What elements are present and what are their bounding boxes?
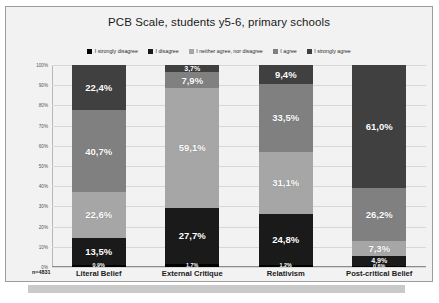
legend-label: I agree: [280, 48, 297, 54]
bar-segment-value-label: 40,7%: [85, 147, 112, 157]
bar-segment[interactable]: 7,3%: [352, 241, 406, 256]
legend-label: I disagree: [155, 48, 178, 54]
legend-item[interactable]: I strongly disagree: [87, 48, 138, 54]
y-axis-tick-label: 100%: [36, 63, 48, 68]
stacked-bar[interactable]: 61,0%26,2%7,3%4,9%0,6%: [352, 65, 406, 267]
bar-segment-value-label: 3,7%: [184, 65, 200, 72]
bar-segment[interactable]: 24,8%: [259, 214, 313, 264]
y-axis-tick-label: 40%: [39, 184, 48, 189]
x-axis-category-label: Relativism: [239, 269, 333, 278]
bar-segment-value-label: 1,7%: [186, 263, 198, 268]
bar-column[interactable]: 3,7%7,9%59,1%27,7%1,7%: [146, 65, 240, 267]
x-axis-category-label: External Critique: [146, 269, 240, 278]
legend-swatch-icon: [148, 49, 153, 54]
bar-segment[interactable]: 27,7%: [165, 208, 219, 264]
legend-swatch-icon: [273, 49, 278, 54]
bar-segment-value-label: 27,7%: [179, 231, 206, 241]
stacked-bar[interactable]: 3,7%7,9%59,1%27,7%1,7%: [165, 65, 219, 267]
bar-segment-value-label: 1,2%: [280, 263, 292, 268]
legend-label: I strongly disagree: [95, 48, 138, 54]
bar-segment-value-label: 0,9%: [93, 263, 105, 268]
bar-group: 22,4%40,7%22,6%13,5%0,9%3,7%7,9%59,1%27,…: [52, 65, 426, 267]
bar-segment-value-label: 22,4%: [85, 83, 112, 93]
bar-segment[interactable]: 7,9%: [165, 72, 219, 88]
chart-legend: I strongly disagreeI disagreeI neither a…: [6, 48, 432, 54]
stacked-bar[interactable]: 9,4%33,5%31,1%24,8%1,2%: [259, 65, 313, 267]
legend-item[interactable]: I strongly agree: [307, 48, 351, 54]
bar-segment[interactable]: 59,1%: [165, 88, 219, 207]
bar-segment[interactable]: 26,2%: [352, 188, 406, 241]
bar-segment-value-label: 61,0%: [366, 122, 393, 132]
bar-column[interactable]: 9,4%33,5%31,1%24,8%1,2%: [239, 65, 333, 267]
bar-segment[interactable]: 61,0%: [352, 65, 406, 188]
bar-segment[interactable]: 0,9%: [72, 265, 126, 267]
legend-swatch-icon: [307, 49, 312, 54]
bar-segment-value-label: 31,1%: [272, 178, 299, 188]
y-axis-tick-label: 30%: [39, 204, 48, 209]
x-axis-labels: Literal BeliefExternal CritiqueRelativis…: [52, 269, 426, 278]
bar-segment-value-label: 59,1%: [179, 143, 206, 153]
bar-segment[interactable]: 3,7%: [165, 65, 219, 72]
y-axis-tick-label: 80%: [39, 103, 48, 108]
chart-title: PCB Scale, students y5-6, primary school…: [6, 16, 432, 28]
bar-segment-value-label: 33,5%: [272, 113, 299, 123]
legend-label: I strongly agree: [314, 48, 351, 54]
sample-size-label: n=4831: [32, 269, 50, 275]
y-axis-tick-label: 50%: [39, 164, 48, 169]
bar-segment[interactable]: 40,7%: [72, 110, 126, 192]
bar-segment[interactable]: 1,7%: [165, 264, 219, 267]
bar-segment[interactable]: 31,1%: [259, 152, 313, 215]
bar-column[interactable]: 22,4%40,7%22,6%13,5%0,9%: [52, 65, 146, 267]
legend-item[interactable]: I neither agree, nor disagree: [189, 48, 263, 54]
bar-segment[interactable]: 33,5%: [259, 84, 313, 152]
screenshot-page: PCB Scale, students y5-6, primary school…: [0, 0, 439, 303]
legend-label: I neither agree, nor disagree: [196, 48, 263, 54]
plot-area: 100%90%80%70%60%50%40%30%20%10%0%22,4%40…: [52, 65, 426, 267]
bar-segment[interactable]: 9,4%: [259, 65, 313, 84]
legend-swatch-icon: [87, 49, 92, 54]
y-axis-tick-label: 90%: [39, 83, 48, 88]
legend-item[interactable]: I disagree: [148, 48, 179, 54]
figure-caption: [2, 286, 432, 302]
bar-column[interactable]: 61,0%26,2%7,3%4,9%0,6%: [333, 65, 427, 267]
bar-segment-value-label: 24,8%: [272, 235, 299, 245]
bar-segment[interactable]: 22,4%: [72, 65, 126, 110]
y-axis-tick-label: 10%: [39, 244, 48, 249]
bar-segment-value-label: 7,9%: [181, 76, 203, 86]
y-axis-tick-label: 20%: [39, 224, 48, 229]
bar-segment-value-label: 9,4%: [275, 70, 297, 80]
bar-segment[interactable]: 0,6%: [352, 266, 406, 267]
bar-segment-value-label: 13,5%: [85, 247, 112, 257]
grid-line: [52, 267, 426, 268]
x-axis-category-label: Literal Belief: [52, 269, 146, 278]
bar-segment-value-label: 22,6%: [85, 210, 112, 220]
y-axis-tick-label: 60%: [39, 143, 48, 148]
legend-swatch-icon: [189, 49, 194, 54]
legend-item[interactable]: I agree: [273, 48, 297, 54]
bar-segment-value-label: 7,3%: [368, 244, 390, 254]
bar-segment-value-label: 26,2%: [366, 210, 393, 220]
chart-frame: PCB Scale, students y5-6, primary school…: [5, 6, 433, 282]
bar-segment[interactable]: 1,2%: [259, 265, 313, 267]
stacked-bar[interactable]: 22,4%40,7%22,6%13,5%0,9%: [72, 65, 126, 267]
y-axis-tick-label: 70%: [39, 123, 48, 128]
bar-segment[interactable]: 22,6%: [72, 192, 126, 238]
x-axis-category-label: Post-critical Belief: [333, 269, 427, 278]
